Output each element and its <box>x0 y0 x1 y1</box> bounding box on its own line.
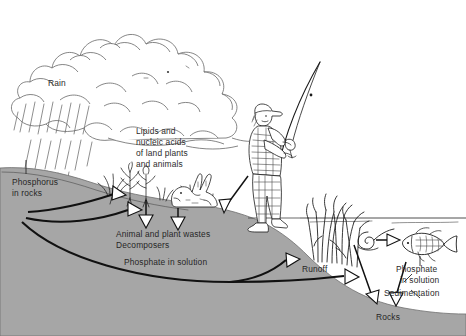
label-lipids-line3: of land plants <box>136 148 188 158</box>
label-phosphorus-rocks-line1: Phosphorus <box>12 177 58 187</box>
fish-eye <box>407 242 409 244</box>
rod-guide-icon <box>310 94 313 97</box>
label-rocks: Rocks <box>376 312 400 322</box>
label-lipids-line2: nucleic acids <box>136 137 186 147</box>
diagram-canvas: Rain <box>0 0 466 336</box>
label-runoff: Runoff <box>302 264 328 274</box>
label-phosphate-water-line1: Phosphate <box>396 264 438 274</box>
label-phosphate-water-line2: in solution <box>400 275 440 285</box>
label-lipids-line1: Lipids and <box>136 126 176 136</box>
label-lipids-line4: and animals <box>136 159 183 169</box>
label-phosphate-in-solution-water: Phosphate in solution <box>396 264 440 285</box>
label-wastes-line2: Decomposers <box>116 240 169 250</box>
label-sedimentation: Sedimentation <box>384 288 440 298</box>
phosphorus-cycle-diagram: Rain <box>0 0 466 336</box>
label-wastes-line1: Animal and plant wastes <box>116 229 210 239</box>
label-rain: Rain <box>48 78 66 88</box>
label-phosphate-in-solution-land: Phosphate in solution <box>124 257 207 267</box>
label-phosphorus-rocks-line2: in rocks <box>12 188 42 198</box>
